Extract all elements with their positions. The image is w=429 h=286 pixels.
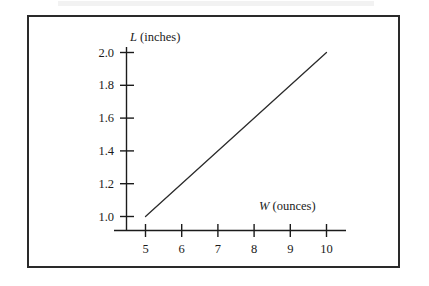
x-axis-title-unit: (ounces) — [269, 199, 315, 213]
y-tick-label-1-8: 1.8 — [86, 79, 114, 92]
x-tick-label-9: 9 — [287, 243, 293, 256]
x-tick-label-8: 8 — [251, 243, 257, 256]
y-tick-label-1-0: 1.0 — [86, 210, 114, 223]
y-axis-title-unit: (inches) — [137, 30, 180, 44]
y-axis-title-variable: L — [130, 30, 137, 44]
x-axis-title: W (ounces) — [259, 200, 316, 213]
figure-root: 2.0 1.8 1.6 1.4 1.2 1.0 5 6 7 8 9 10 L (… — [0, 0, 429, 286]
y-tick-label-1-2: 1.2 — [86, 177, 114, 190]
y-axis-title: L (inches) — [130, 31, 180, 44]
y-tick-label-1-4: 1.4 — [86, 145, 114, 158]
y-tick-label-1-6: 1.6 — [86, 112, 114, 125]
y-tick-label-2-0: 2.0 — [86, 46, 114, 59]
x-tick-label-6: 6 — [179, 243, 185, 256]
x-axis-title-variable: W — [259, 199, 269, 213]
x-tick-label-7: 7 — [215, 243, 221, 256]
x-tick-label-10: 10 — [320, 243, 333, 256]
data-line-series-0 — [146, 53, 327, 217]
x-tick-label-5: 5 — [142, 243, 148, 256]
